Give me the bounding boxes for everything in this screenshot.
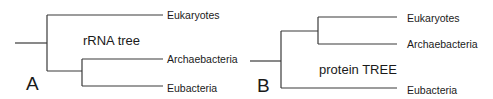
tree-b-panel-label: B bbox=[257, 76, 270, 96]
tree-b-leaf-eukaryotes: Eukaryotes bbox=[407, 12, 460, 24]
tree-b-leaf-eubacteria: Eubacteria bbox=[407, 84, 457, 96]
tree-a-leaf-eukaryotes: Eukaryotes bbox=[167, 9, 220, 21]
tree-a-title: rRNA tree bbox=[83, 33, 140, 48]
tree-a-leaf-archaebacteria: Archaebacteria bbox=[167, 53, 238, 65]
tree-a-panel-label: A bbox=[26, 74, 39, 94]
tree-b-title: protein TREE bbox=[319, 62, 397, 77]
tree-b-leaf-archaebacteria: Archaebacteria bbox=[407, 38, 478, 50]
tree-a-leaf-eubacteria: Eubacteria bbox=[167, 82, 217, 94]
